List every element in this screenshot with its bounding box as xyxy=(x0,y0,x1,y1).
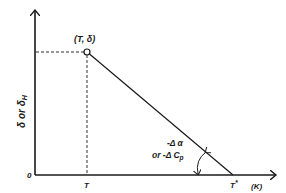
angle-label-line1: -Δ α xyxy=(167,138,184,148)
origin-label: 0 xyxy=(27,171,32,180)
angle-arc xyxy=(197,152,206,174)
x-tick-Tstar: T* xyxy=(230,179,238,190)
x-tick-T: T xyxy=(84,181,90,190)
angle-label-line2: or -Δ Cp xyxy=(152,150,184,162)
x-unit-label: (K) xyxy=(251,182,262,191)
point-marker xyxy=(84,49,90,55)
point-label: (T, δ) xyxy=(74,34,95,44)
y-axis-label: δ or δH xyxy=(16,94,28,128)
diagram: (T, δ) 0 T T* (K) δ or δH -Δ α or -Δ Cp xyxy=(0,0,286,193)
